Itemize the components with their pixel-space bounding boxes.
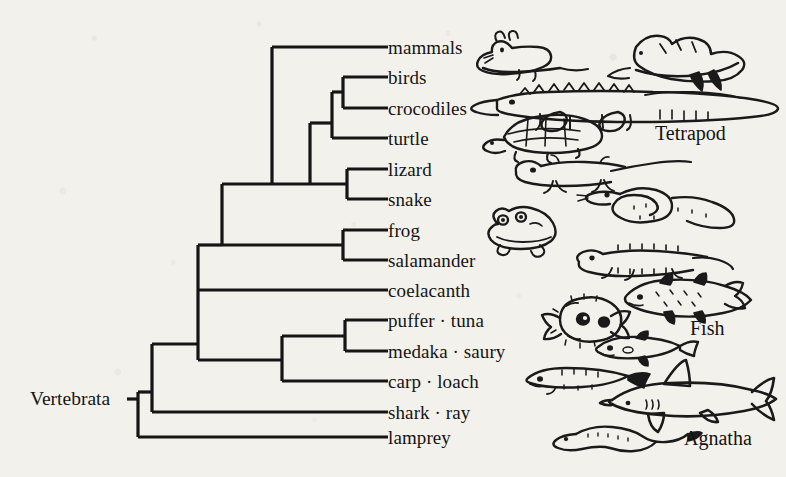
tip-label-crocodiles: crocodiles (388, 99, 467, 118)
coelacanth-drawing (625, 273, 751, 324)
mouse-drawing (477, 31, 588, 81)
tip-label-birds: birds (388, 68, 427, 87)
phylogenetic-tree-figure: mammals birds crocodiles turtle lizard s… (0, 0, 786, 477)
group-label-agnatha: Agnatha (684, 428, 752, 448)
group-label-fish: Fish (690, 318, 724, 338)
tip-label-shark-ray: shark · ray (388, 403, 470, 422)
lizard-drawing (516, 155, 691, 193)
tip-label-lizard: lizard (388, 160, 432, 179)
tip-label-mammals: mammals (388, 38, 463, 57)
frog-drawing (488, 207, 555, 257)
snake-drawing (577, 188, 734, 228)
root-label-vertebrata: Vertebrata (30, 389, 110, 409)
tip-label-salamander: salamander (388, 251, 476, 270)
tip-label-coelacanth: coelacanth (388, 281, 470, 300)
tip-label-carp-loach: carp · loach (388, 372, 479, 391)
tip-label-puffer-tuna: puffer · tuna (388, 311, 484, 330)
group-label-tetrapod: Tetrapod (655, 123, 726, 143)
shark-drawing (600, 360, 776, 432)
tip-label-snake: snake (388, 190, 432, 209)
tip-label-medaka-saury: medaka · saury (388, 342, 505, 361)
bird-drawing (608, 36, 744, 91)
tip-label-turtle: turtle (388, 129, 429, 148)
tip-label-frog: frog (388, 221, 420, 240)
pufferfish-drawing (542, 294, 630, 348)
lamprey-drawing (553, 427, 702, 452)
salamander-drawing (577, 244, 733, 280)
tip-label-lamprey: lamprey (388, 428, 451, 447)
